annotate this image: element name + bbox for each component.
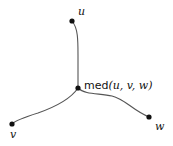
edge-u-med	[72, 21, 78, 88]
edge-med-v	[12, 88, 78, 124]
node-u	[69, 18, 74, 23]
label-u: u	[78, 5, 85, 18]
label-w: w	[155, 120, 165, 133]
node-v	[9, 121, 14, 126]
label-v: v	[10, 128, 17, 141]
label-med-prefix: med	[84, 79, 108, 92]
edge-med-w	[78, 88, 149, 117]
label-med: med(u, v, w)	[84, 79, 152, 92]
node-med	[75, 85, 80, 90]
median-tree-diagram: u med(u, v, w) v w	[0, 0, 173, 146]
label-med-args: (u, v, w)	[108, 79, 152, 92]
node-w	[146, 114, 151, 119]
